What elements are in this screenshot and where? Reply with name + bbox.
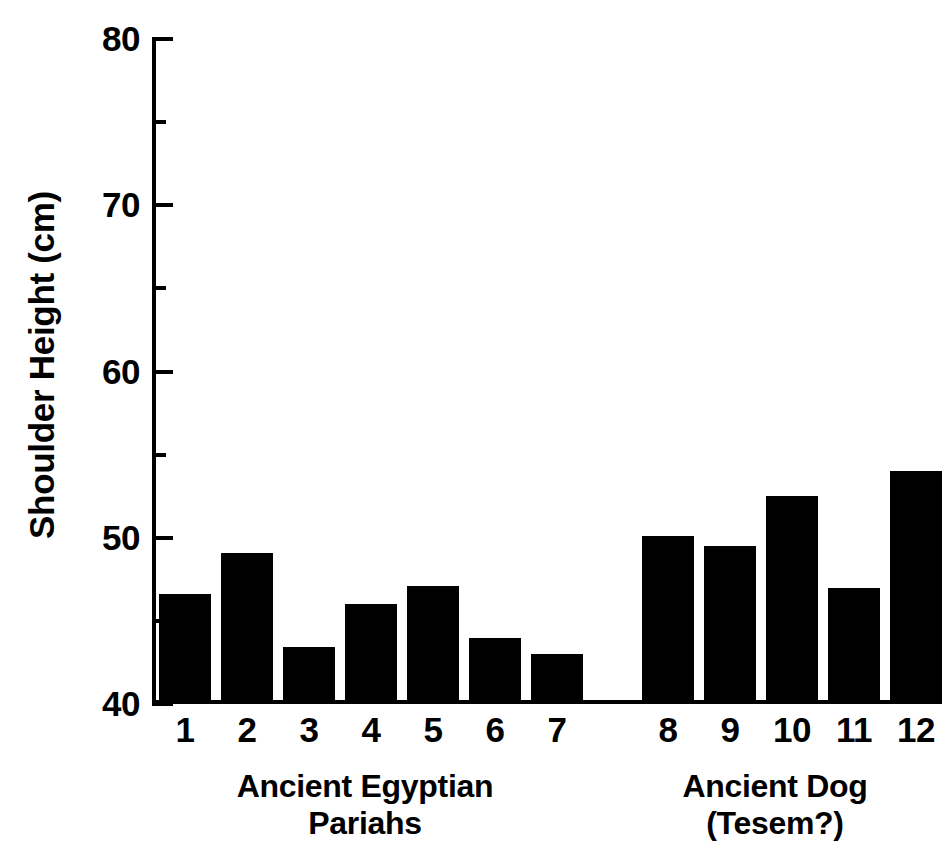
- x-axis-tick-label: 4: [339, 712, 403, 747]
- y-axis-tick-major: [152, 536, 173, 540]
- x-axis-tick-labels: 123456789101112: [156, 712, 930, 758]
- y-axis-tick-minor: [152, 286, 166, 290]
- x-axis-tick-label: 3: [277, 712, 341, 747]
- y-axis-tick-major: [152, 370, 173, 374]
- y-axis-tick-labels: 4050607080: [48, 0, 140, 859]
- x-axis-tick-label: 2: [215, 712, 279, 747]
- y-axis-tick-minor: [152, 619, 166, 623]
- bar: [221, 553, 273, 704]
- bar: [407, 586, 459, 704]
- y-axis-tick-label: 70: [48, 187, 140, 222]
- group-caption-line: Ancient Dog: [620, 768, 930, 805]
- bar: [828, 588, 880, 704]
- x-axis-tick-label: 11: [822, 712, 886, 747]
- x-axis-tick-label: 12: [884, 712, 946, 747]
- bar: [642, 536, 694, 704]
- x-axis-tick-label: 10: [760, 712, 824, 747]
- plot-area: [156, 39, 930, 704]
- y-axis-tick-major: [152, 37, 173, 41]
- y-axis-tick-label: 60: [48, 354, 140, 389]
- y-axis-tick-minor: [152, 453, 166, 457]
- bar: [766, 496, 818, 704]
- y-axis-tick-label: 40: [48, 686, 140, 721]
- bar: [531, 654, 583, 704]
- y-axis-tick-label: 80: [48, 21, 140, 56]
- group-caption-ancient-dog-tesem: Ancient Dog (Tesem?): [620, 768, 930, 842]
- x-axis-tick-label: 1: [153, 712, 217, 747]
- y-axis-tick-major: [152, 203, 173, 207]
- group-caption-ancient-egyptian-pariahs: Ancient Egyptian Pariahs: [150, 768, 580, 842]
- x-axis-tick-label: 7: [525, 712, 589, 747]
- y-axis-tick-minor: [152, 120, 166, 124]
- group-caption-line: Pariahs: [150, 805, 580, 842]
- bar: [283, 647, 335, 704]
- group-caption-line: Ancient Egyptian: [150, 768, 580, 805]
- bar: [345, 604, 397, 704]
- bar: [890, 471, 942, 704]
- x-axis-tick-label: 9: [698, 712, 762, 747]
- y-axis-tick-label: 50: [48, 520, 140, 555]
- x-axis-tick-label: 8: [636, 712, 700, 747]
- group-caption-line: (Tesem?): [620, 805, 930, 842]
- y-axis-tick-major: [152, 702, 173, 706]
- bar: [469, 638, 521, 705]
- bar: [704, 546, 756, 704]
- x-axis-tick-label: 5: [401, 712, 465, 747]
- bar: [159, 594, 211, 704]
- x-axis-tick-label: 6: [463, 712, 527, 747]
